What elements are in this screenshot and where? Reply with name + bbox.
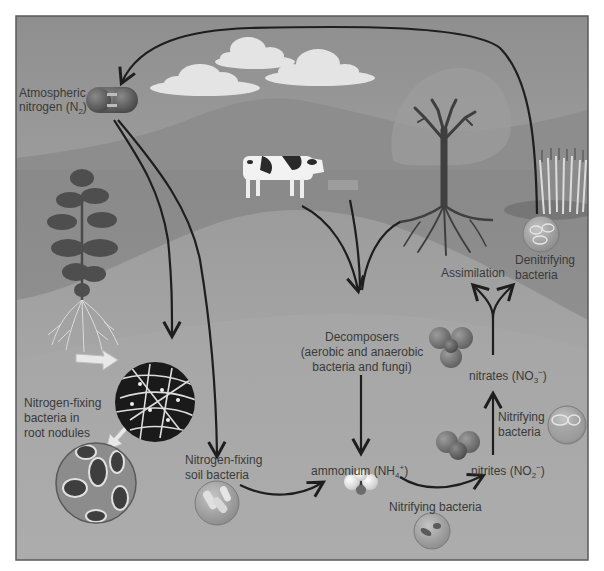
label-nitrites: nitrites (NO2−) bbox=[471, 461, 545, 483]
label-nitrifying-bacteria-right: Nitrifying bacteria bbox=[498, 410, 545, 440]
label-n2-suffix: ) bbox=[83, 100, 87, 114]
label-nitrites-sub: 2 bbox=[532, 471, 536, 480]
label-assimilation: Assimilation bbox=[441, 266, 505, 280]
label-soil-line2: soil bacteria bbox=[185, 468, 262, 483]
soil-bacteria-illustration bbox=[195, 481, 239, 525]
label-denitrifying-line2: bacteria bbox=[515, 268, 575, 283]
label-nitrates-sub: 3 bbox=[534, 376, 538, 385]
label-decomposers-line2: (aerobic and anaerobic bbox=[300, 345, 424, 360]
nitrifying-bacteria-right-illustration bbox=[548, 406, 586, 444]
label-ammonium-suffix: ) bbox=[404, 464, 408, 478]
label-nitrites-prefix: nitrites (NO bbox=[471, 464, 532, 478]
diagram-canvas bbox=[0, 0, 604, 571]
label-nitrates-prefix: nitrates (NO bbox=[469, 369, 534, 383]
denitrifying-bacteria-illustration bbox=[523, 216, 559, 252]
label-decomposers-line1: Decomposers bbox=[300, 330, 424, 345]
label-decomposers: Decomposers (aerobic and anaerobic bacte… bbox=[300, 330, 424, 375]
label-atmospheric-line1: Atmospheric bbox=[19, 86, 87, 100]
nitrogen-cycle-diagram: Atmospheric nitrogen (N2) Nitrogen-fixin… bbox=[0, 0, 604, 571]
label-nitrifying-bacteria-bottom: Nitrifying bacteria bbox=[389, 500, 482, 514]
label-nitrogen-fixing-soil-bacteria: Nitrogen-fixing soil bacteria bbox=[185, 453, 262, 483]
label-nitrifying-right-line2: bacteria bbox=[498, 425, 545, 440]
label-n2-prefix: nitrogen (N bbox=[19, 100, 78, 114]
label-atmospheric-nitrogen: Atmospheric nitrogen (N2) bbox=[19, 86, 87, 119]
label-denitrifying-line1: Denitrifying bbox=[515, 253, 575, 268]
label-nitrogen-fixing-root-nodules: Nitrogen-fixing bacteria in root nodules bbox=[24, 396, 101, 441]
label-decomposers-line3: bacteria and fungi) bbox=[300, 360, 424, 375]
label-ammonium-prefix: ammonium (NH bbox=[311, 464, 395, 478]
label-root-line1: Nitrogen-fixing bbox=[24, 396, 101, 411]
label-soil-line1: Nitrogen-fixing bbox=[185, 453, 262, 468]
label-ammonium-sub: 4 bbox=[395, 471, 399, 480]
label-nitrites-suffix: ) bbox=[541, 464, 545, 478]
bacteria-cell-micrograph bbox=[56, 443, 136, 523]
label-root-line2: bacteria in bbox=[24, 411, 101, 426]
label-nitrates-suffix: ) bbox=[543, 369, 547, 383]
n2-molecule bbox=[86, 87, 138, 113]
nitrifying-bacteria-bottom-illustration bbox=[414, 513, 450, 549]
label-nitrifying-right-line1: Nitrifying bbox=[498, 410, 545, 425]
label-root-line3: root nodules bbox=[24, 426, 101, 441]
label-denitrifying-bacteria: Denitrifying bacteria bbox=[515, 253, 575, 283]
label-ammonium: ammonium (NH4+) bbox=[311, 461, 408, 483]
label-atmospheric-line2: nitrogen (N2) bbox=[19, 100, 87, 119]
label-nitrates: nitrates (NO3−) bbox=[469, 366, 547, 388]
